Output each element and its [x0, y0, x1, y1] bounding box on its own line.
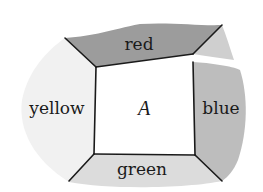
label-blue: blue: [202, 98, 239, 118]
label-a: A: [136, 97, 151, 119]
label-red: red: [124, 34, 153, 54]
region-diagram: red blue green yellow A: [0, 0, 263, 192]
label-yellow: yellow: [28, 98, 85, 118]
edge-bottom: [94, 154, 195, 155]
label-green: green: [117, 159, 167, 179]
